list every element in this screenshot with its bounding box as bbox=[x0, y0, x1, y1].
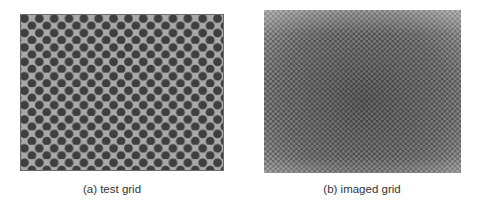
test-grid-image bbox=[20, 14, 224, 171]
caption-imaged-grid: (b) imaged grid bbox=[323, 183, 400, 195]
imaged-grid-pattern bbox=[264, 10, 461, 173]
caption-test-grid: (a) test grid bbox=[83, 183, 141, 195]
test-grid-pattern bbox=[21, 15, 223, 170]
imaged-grid-image bbox=[264, 10, 461, 173]
